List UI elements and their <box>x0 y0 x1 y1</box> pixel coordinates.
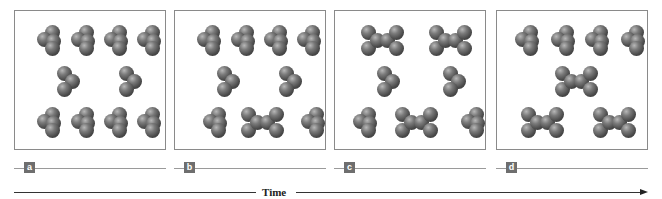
atom-sphere <box>279 82 294 97</box>
atom-sphere <box>457 25 472 40</box>
atom-sphere <box>549 123 564 138</box>
atom-sphere <box>523 41 538 56</box>
atom-sphere <box>593 41 608 56</box>
atom-sphere <box>205 41 220 56</box>
atom-sphere <box>269 107 284 122</box>
atom-sphere <box>549 107 564 122</box>
time-axis-line <box>14 192 256 193</box>
label-row-a: a <box>14 162 166 174</box>
time-axis: Time <box>14 186 650 198</box>
frame-a <box>14 10 166 150</box>
time-axis-line <box>296 192 642 193</box>
atom-sphere <box>443 82 458 97</box>
label-line <box>14 168 166 169</box>
atom-sphere <box>272 41 287 56</box>
atom-sphere <box>145 41 160 56</box>
atom-sphere <box>112 41 127 56</box>
atom-sphere <box>457 41 472 56</box>
frame-label-a: a <box>24 162 35 173</box>
atom-sphere <box>145 123 160 138</box>
frame-label-d: d <box>506 162 517 173</box>
label-line <box>174 168 326 169</box>
atom-sphere <box>119 82 134 97</box>
frame-d <box>496 10 648 150</box>
atom-sphere <box>377 82 392 97</box>
atom-sphere <box>112 123 127 138</box>
time-axis-label: Time <box>262 186 286 198</box>
atom-sphere <box>389 41 404 56</box>
frame-label-c: c <box>344 162 355 173</box>
atom-sphere <box>621 123 636 138</box>
atom-sphere <box>621 107 636 122</box>
atom-sphere <box>79 123 94 138</box>
atom-sphere <box>45 123 60 138</box>
atom-sphere <box>239 41 254 56</box>
atom-sphere <box>217 82 232 97</box>
atom-sphere <box>469 123 484 138</box>
atom-sphere <box>629 41 644 56</box>
label-line <box>496 168 648 169</box>
atom-sphere <box>79 41 94 56</box>
frame-b <box>174 10 326 150</box>
frame-c <box>334 10 486 150</box>
atom-sphere <box>305 41 320 56</box>
frame-label-b: b <box>184 162 195 173</box>
atom-sphere <box>211 123 226 138</box>
atom-sphere <box>309 123 324 138</box>
atom-sphere <box>361 123 376 138</box>
atom-sphere <box>559 41 574 56</box>
atom-sphere <box>583 82 598 97</box>
arrow-head-icon <box>640 189 648 195</box>
atom-sphere <box>57 82 72 97</box>
atom-sphere <box>423 107 438 122</box>
label-row-d: d <box>496 162 648 174</box>
atom-sphere <box>389 25 404 40</box>
atom-sphere <box>423 123 438 138</box>
atom-sphere <box>269 123 284 138</box>
atom-sphere <box>583 66 598 81</box>
atom-sphere <box>45 41 60 56</box>
label-line <box>334 168 486 169</box>
label-row-b: b <box>174 162 326 174</box>
label-row-c: c <box>334 162 486 174</box>
